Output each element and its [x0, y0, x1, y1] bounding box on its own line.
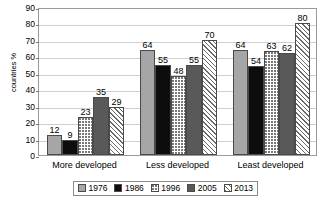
- x-axis-tick-labels: More developedLess developedLeast develo…: [38, 160, 317, 174]
- legend-swatch: [114, 184, 122, 192]
- bar: [93, 97, 109, 155]
- legend-label: 1976: [89, 184, 108, 193]
- y-axis-tick-label: 20: [26, 119, 35, 128]
- bar-value-label: 55: [158, 56, 168, 65]
- bar: [109, 107, 125, 155]
- bar: [295, 23, 311, 155]
- legend-swatch: [224, 184, 232, 192]
- legend-item[interactable]: 2005: [187, 184, 216, 193]
- x-axis-tick-label: Least developed: [237, 160, 303, 170]
- y-axis-tick-label: 0: [30, 152, 35, 161]
- bar-value-label: 70: [204, 31, 214, 40]
- legend-label: 1996: [161, 184, 180, 193]
- bar: [186, 65, 202, 155]
- y-axis-tick-labels: 0102030405060708090: [14, 8, 35, 156]
- legend-swatch: [187, 184, 195, 192]
- bar: [171, 76, 187, 155]
- bar-value-label: 35: [96, 88, 106, 97]
- bar-chart: countries % 0102030405060708090 12923352…: [0, 0, 322, 204]
- bar-value-label: 54: [251, 57, 261, 66]
- chart-legend: 19761986199620052013: [73, 181, 258, 196]
- bar: [155, 65, 171, 155]
- y-axis-tick-label: 40: [26, 86, 35, 95]
- bar: [248, 66, 264, 155]
- y-axis-tick-label: 30: [26, 102, 35, 111]
- legend-label: 2005: [198, 184, 217, 193]
- y-axis-tick: [36, 157, 39, 158]
- plot-area: 12923352964554855706454636280: [38, 8, 317, 156]
- bar-value-label: 80: [297, 14, 307, 23]
- legend-item[interactable]: 1976: [78, 184, 107, 193]
- legend-item[interactable]: 2013: [224, 184, 253, 193]
- bar-value-label: 63: [266, 42, 276, 51]
- bar: [233, 50, 249, 155]
- y-axis-tick-label: 60: [26, 53, 35, 62]
- y-axis-tick-label: 70: [26, 37, 35, 46]
- bar-value-label: 12: [49, 126, 59, 135]
- legend-swatch: [78, 184, 86, 192]
- bar-value-label: 23: [80, 108, 90, 117]
- y-axis-tick-label: 10: [26, 135, 35, 144]
- bar-value-label: 48: [173, 67, 183, 76]
- bar: [78, 117, 94, 155]
- y-axis-tick-label: 90: [26, 4, 35, 13]
- bar-value-label: 55: [189, 56, 199, 65]
- bar: [47, 135, 63, 155]
- x-axis-tick-label: Less developed: [146, 160, 209, 170]
- bars-layer: 12923352964554855706454636280: [39, 9, 316, 155]
- bar-value-label: 64: [235, 41, 245, 50]
- x-axis-tick-label: More developed: [52, 160, 117, 170]
- bar: [62, 140, 78, 155]
- bar: [140, 50, 156, 155]
- bar-value-label: 29: [111, 98, 121, 107]
- bar-value-label: 62: [282, 44, 292, 53]
- legend-item[interactable]: 1986: [114, 184, 143, 193]
- bar-value-label: 9: [67, 131, 72, 140]
- legend-item[interactable]: 1996: [151, 184, 180, 193]
- legend-label: 1986: [125, 184, 144, 193]
- legend-label: 2013: [234, 184, 253, 193]
- y-axis-tick-label: 80: [26, 20, 35, 29]
- bar: [279, 53, 295, 155]
- y-axis-tick-label: 50: [26, 70, 35, 79]
- legend-swatch: [151, 184, 159, 192]
- bar: [202, 40, 218, 155]
- bar: [264, 51, 280, 155]
- bar-value-label: 64: [142, 41, 152, 50]
